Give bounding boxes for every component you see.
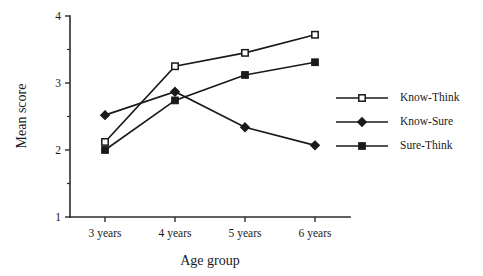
legend-label: Know-Sure <box>400 115 453 127</box>
data-point-marker <box>242 72 249 79</box>
chart-figure: 1234 Mean score 3 years4 years5 years6 y… <box>0 0 483 276</box>
y-tick-label: 4 <box>55 10 61 22</box>
data-point-marker <box>312 59 319 66</box>
data-point-marker <box>359 143 366 150</box>
x-tick-label: 6 years <box>299 227 332 240</box>
y-tick-label: 2 <box>55 144 61 156</box>
legend-label: Know-Think <box>400 91 460 103</box>
legend-label: Sure-Think <box>400 139 453 151</box>
data-point-marker <box>242 50 248 56</box>
y-tick-label: 3 <box>55 77 61 89</box>
data-point-marker <box>172 97 179 104</box>
data-point-marker <box>102 139 108 145</box>
y-axis-title: Mean score <box>14 84 29 149</box>
line-chart-svg: 1234 Mean score 3 years4 years5 years6 y… <box>0 0 483 276</box>
x-tick-label: 3 years <box>89 227 122 240</box>
data-point-marker <box>359 95 365 101</box>
x-tick-label: 4 years <box>159 227 192 240</box>
x-tick-label: 5 years <box>229 227 262 240</box>
data-point-marker <box>102 147 109 154</box>
data-point-marker <box>172 63 178 69</box>
data-point-marker <box>312 32 318 38</box>
y-tick-label: 1 <box>55 211 61 223</box>
x-axis-title: Age group <box>180 253 240 268</box>
